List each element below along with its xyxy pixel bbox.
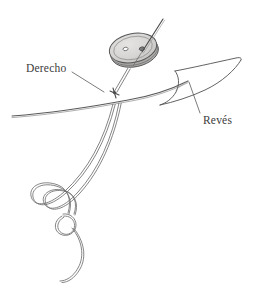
leader-line-derecho (72, 72, 104, 92)
leader-line-reves (189, 82, 200, 113)
sewing-diagram-figure: Derecho Revés (0, 0, 254, 283)
knot-icon (55, 214, 76, 236)
stitch-point (110, 68, 130, 98)
label-derecho: Derecho (26, 63, 66, 75)
thread-icon (31, 103, 121, 283)
label-reves: Revés (203, 115, 232, 127)
fabric-fold (160, 58, 241, 105)
diagram-canvas (0, 0, 254, 283)
